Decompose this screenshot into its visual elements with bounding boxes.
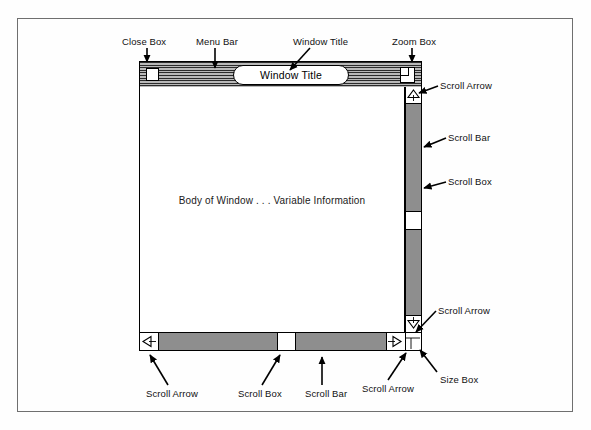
diagram-page: Close Box Menu Bar Window Title Zoom Box…: [0, 0, 591, 430]
label-scroll-bar-right: Scroll Bar: [448, 132, 490, 143]
zoom-box-inner-square: [401, 68, 409, 76]
label-scroll-arrow-right-bottom: Scroll Arrow: [438, 305, 490, 316]
horizontal-scroll-track[interactable]: [159, 333, 386, 350]
vertical-scrollbar[interactable]: [405, 87, 422, 332]
triangle-down-icon: [406, 316, 421, 331]
label-window-title: Window Title: [293, 36, 348, 47]
label-scroll-arrow-right-top: Scroll Arrow: [440, 80, 492, 91]
label-scroll-arrow-bottom-left: Scroll Arrow: [146, 388, 198, 399]
label-menu-bar: Menu Bar: [196, 36, 238, 47]
triangle-left-icon: [140, 333, 157, 350]
zoom-box[interactable]: [400, 67, 415, 83]
vertical-scroll-track[interactable]: [406, 104, 421, 315]
label-scroll-bar-bottom: Scroll Bar: [305, 388, 347, 399]
scroll-arrow-right-button[interactable]: [386, 333, 405, 350]
window-title-text: Window Title: [260, 69, 322, 81]
scroll-arrow-down-button[interactable]: [406, 315, 421, 332]
size-grip-icon: [406, 333, 421, 350]
scroll-arrow-left-button[interactable]: [140, 333, 159, 350]
label-close-box: Close Box: [122, 36, 166, 47]
vertical-scroll-box[interactable]: [406, 211, 421, 230]
label-zoom-box: Zoom Box: [392, 36, 436, 47]
horizontal-scrollbar[interactable]: [139, 332, 405, 351]
horizontal-scroll-box[interactable]: [277, 333, 296, 350]
window-title-plate[interactable]: Window Title: [233, 65, 349, 85]
close-box[interactable]: [146, 68, 159, 81]
window-body-text: Body of Window . . . Variable Informatio…: [140, 195, 404, 206]
size-box[interactable]: [405, 332, 422, 351]
window-body[interactable]: Body of Window . . . Variable Informatio…: [139, 87, 405, 332]
label-scroll-box-bottom: Scroll Box: [238, 388, 282, 399]
triangle-right-icon: [387, 333, 404, 350]
label-scroll-arrow-bottom-right: Scroll Arrow: [362, 383, 414, 394]
window-title-bar: Window Title: [139, 61, 422, 88]
label-size-box: Size Box: [440, 374, 478, 385]
label-scroll-box-right: Scroll Box: [448, 176, 492, 187]
scroll-arrow-up-button[interactable]: [406, 87, 421, 104]
triangle-up-icon: [406, 87, 421, 102]
macintosh-window: Window Title Body of Window . . . Variab…: [139, 61, 422, 357]
